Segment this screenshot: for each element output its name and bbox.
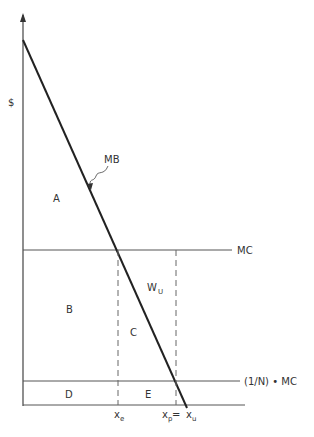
mb-line <box>23 40 187 408</box>
xp-xu-tick-label: x p = x u <box>162 409 196 423</box>
region-d-label: D <box>65 389 73 400</box>
mb-pointer-icon <box>90 166 108 184</box>
region-b-label: B <box>66 304 73 315</box>
y-axis-label: $ <box>8 97 14 108</box>
mc-label: MC <box>237 245 253 256</box>
diagram-canvas: $ MB MC (1/N) • MC A B C D E W U x e x p… <box>0 0 314 437</box>
xe-tick-label: x e <box>114 409 124 423</box>
region-a-label: A <box>53 193 60 204</box>
y-axis-arrow-icon <box>20 13 26 22</box>
region-e-label: E <box>145 389 151 400</box>
svg-text:=: = <box>172 409 180 420</box>
svg-text:u: u <box>192 415 196 423</box>
region-c-label: C <box>130 327 137 338</box>
region-wu-label: W U <box>147 282 163 296</box>
svg-text:W: W <box>147 282 157 293</box>
mc-share-label: (1/N) • MC <box>244 376 297 387</box>
mb-label: MB <box>104 154 120 165</box>
svg-text:e: e <box>120 415 124 423</box>
svg-text:U: U <box>158 288 163 296</box>
